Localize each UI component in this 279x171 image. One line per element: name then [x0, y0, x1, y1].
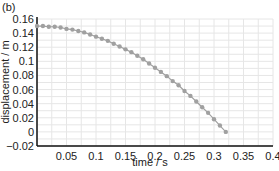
data-point	[88, 32, 92, 36]
data-point	[171, 79, 175, 83]
x-tick-label: 0.05	[56, 150, 77, 162]
data-point	[135, 53, 139, 57]
data-point	[123, 47, 127, 51]
y-tick-label: 0.08	[13, 69, 34, 81]
y-tick-label: −0.02	[6, 140, 34, 152]
y-tick-label: 0.14	[13, 27, 34, 39]
y-tick-label: 0.04	[13, 98, 34, 110]
data-point	[218, 123, 222, 127]
data-point	[165, 74, 169, 78]
y-tick-label: 0	[28, 126, 34, 138]
data-point	[41, 24, 45, 28]
data-point	[194, 99, 198, 103]
data-point	[200, 105, 204, 109]
y-tick-label: 0.16	[13, 13, 34, 25]
data-point	[182, 89, 186, 93]
y-tick-label: 0.12	[13, 41, 34, 53]
data-point	[224, 130, 228, 134]
x-tick-label: 0.4	[265, 150, 279, 162]
x-tick-label: 0.25	[174, 150, 195, 162]
data-point	[35, 24, 39, 28]
data-point	[206, 111, 210, 115]
data-point	[94, 34, 98, 38]
x-tick-label: 0.35	[233, 150, 254, 162]
y-tick-label: 0.02	[13, 112, 34, 124]
data-point	[159, 70, 163, 74]
y-tick-label: 0.1	[19, 55, 34, 67]
x-axis-label: time / s	[132, 156, 168, 168]
data-point	[106, 39, 110, 43]
data-point	[129, 50, 133, 54]
displacement-time-chart: 0.160.140.120.10.080.060.040.020−0.02 0.…	[0, 0, 279, 171]
data-point	[100, 37, 104, 41]
data-point	[82, 30, 86, 34]
y-axis-label: displacement / m	[0, 40, 11, 123]
x-tick-label: 0.3	[206, 150, 221, 162]
data-point	[141, 57, 145, 61]
data-point	[76, 29, 80, 33]
data-point	[64, 27, 68, 31]
data-point	[176, 83, 180, 87]
data-point	[70, 27, 74, 31]
x-tick-label: 0.1	[88, 150, 103, 162]
data-point	[117, 44, 121, 48]
data-point	[188, 94, 192, 98]
data-point	[147, 61, 151, 65]
data-point	[53, 25, 57, 29]
grid	[37, 19, 273, 146]
data-point	[47, 25, 51, 29]
data-point	[58, 25, 62, 29]
y-tick-label: 0.06	[13, 84, 34, 96]
data-point	[212, 117, 216, 121]
data-point	[112, 41, 116, 45]
data-point	[153, 65, 157, 69]
panel-label: (b)	[2, 1, 15, 13]
